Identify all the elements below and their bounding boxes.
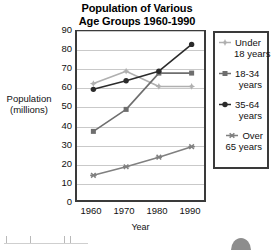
- y-axis-tick-label: 10: [54, 178, 72, 188]
- chart-title: Population of Various Age Groups 1960-19…: [62, 2, 212, 27]
- data-point-marker-plus-diamond: [155, 83, 162, 90]
- y-axis-tick-label: 30: [54, 140, 72, 150]
- y-axis-tick-label: 20: [54, 159, 72, 169]
- legend-label-line-2: 18 years: [217, 48, 265, 60]
- data-point-marker-plus-diamond: [90, 80, 97, 87]
- data-point-marker-square: [91, 129, 96, 134]
- data-point-marker-circle: [222, 101, 227, 106]
- legend-item-1[interactable]: Under18 years: [217, 36, 265, 62]
- series-layer: [77, 32, 208, 204]
- x-axis-tick-label: 1980: [140, 205, 174, 216]
- legend-marker-circle-icon: [218, 99, 232, 110]
- x-axis-label: Year: [75, 222, 206, 232]
- legend-marker-square-icon: [218, 68, 232, 79]
- y-axis-tick-label: 40: [54, 121, 72, 131]
- artifact-rule: [4, 243, 88, 244]
- y-axis-label-line-2: (millions): [1, 104, 57, 115]
- legend-marker-plus-diamond-icon: [218, 37, 232, 48]
- x-axis-tick-label: 1960: [74, 205, 108, 216]
- x-axis-tick-labels: 1960197019801990: [75, 205, 206, 219]
- y-axis-tick-label: 0: [54, 197, 72, 207]
- data-point-marker-plus-diamond: [222, 39, 229, 46]
- plot-inner: [77, 32, 204, 200]
- artifact-mark: [6, 236, 7, 243]
- data-point-marker-circle: [189, 42, 194, 47]
- y-axis-tick-labels: 0102030405060708090: [53, 30, 72, 202]
- artifact-mark: [70, 236, 71, 243]
- y-axis-tick-label: 80: [54, 44, 72, 54]
- y-axis-label: Population (millions): [1, 93, 57, 115]
- y-axis-label-line-1: Population: [1, 93, 57, 104]
- legend-label-line-1: Over: [242, 130, 263, 141]
- legend-item-4[interactable]: Over65 years: [217, 129, 265, 155]
- artifact-mark: [30, 236, 31, 243]
- chart-legend: Under18 years18-34years35-64yearsOver65 …: [213, 31, 269, 169]
- data-point-marker-asterisk: [156, 155, 162, 160]
- legend-label-line-1: 18-34: [235, 68, 259, 79]
- legend-item-2[interactable]: 18-34years: [217, 67, 265, 93]
- data-point-marker-asterisk: [188, 144, 194, 149]
- series-over-65-years: [90, 144, 195, 177]
- data-point-marker-asterisk: [123, 164, 129, 169]
- data-point-marker-circle: [156, 68, 161, 73]
- data-point-marker-asterisk: [229, 133, 235, 138]
- data-point-marker-circle: [91, 87, 96, 92]
- legend-marker-asterisk-icon: [225, 130, 239, 141]
- data-point-marker-plus-diamond: [188, 83, 195, 90]
- y-axis-tick-label: 50: [54, 101, 72, 111]
- series-35-64-years: [91, 42, 195, 92]
- artifact-mark: [64, 236, 65, 243]
- series-18-34-years: [91, 71, 194, 134]
- y-axis-tick-label: 60: [54, 82, 72, 92]
- y-axis-tick-label: 90: [54, 25, 72, 35]
- legend-item-3[interactable]: 35-64years: [217, 98, 265, 124]
- x-axis-tick-label: 1990: [173, 205, 207, 216]
- data-point-marker-plus-diamond: [123, 68, 130, 75]
- legend-label-line-1: Under: [235, 37, 261, 48]
- data-point-marker-square: [223, 71, 228, 76]
- chart-title-line-1: Population of Various: [62, 2, 212, 15]
- y-axis-tick-label: 70: [54, 63, 72, 73]
- legend-label-line-2: years: [217, 79, 265, 91]
- plot-area: [75, 30, 206, 202]
- page-artifact: [0, 236, 271, 247]
- data-point-marker-square: [124, 107, 129, 112]
- data-point-marker-asterisk: [90, 173, 96, 178]
- data-point-marker-circle: [123, 78, 128, 83]
- chart-title-line-2: Age Groups 1960-1990: [62, 15, 212, 28]
- data-point-marker-square: [189, 71, 194, 76]
- x-axis-tick-label: 1970: [107, 205, 141, 216]
- legend-label-line-2: years: [217, 110, 265, 122]
- legend-label-line-1: 35-64: [235, 99, 259, 110]
- legend-label-line-2: 65 years: [217, 141, 265, 153]
